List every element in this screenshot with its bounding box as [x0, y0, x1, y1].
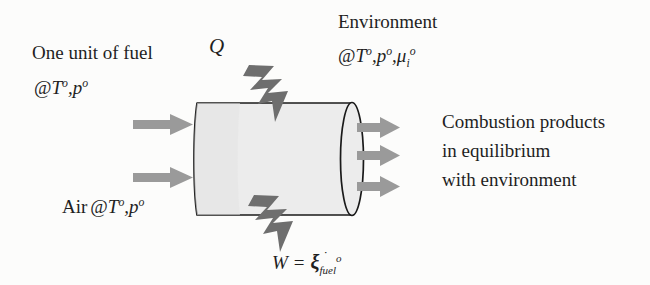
fuel-state-label: @To,po [34, 78, 88, 97]
fuel-pressure-symbol: p [73, 77, 83, 98]
env-pressure-symbol: p [377, 45, 387, 66]
heat-symbol-label: Q [209, 36, 224, 57]
products-label-line2: in equilibrium [442, 141, 550, 160]
fuel-label-line1: One unit of fuel [32, 43, 153, 62]
arrow-right-icon-air-inlet [133, 167, 193, 188]
xi-glyph: ξ [311, 251, 320, 273]
products-label-line1: Combustion products [442, 112, 605, 131]
env-temperature-symbol: T [356, 45, 367, 66]
env-chemical-potential-index: i [406, 57, 409, 70]
fuel-exergy-rate-symbol: ˙ξfuelo [311, 253, 342, 273]
xi-overdot: ˙ [323, 249, 327, 262]
xi-superscript-degree: o [336, 252, 342, 264]
air-temperature-symbol: T [108, 196, 119, 217]
air-state-label: Air@To,po [62, 197, 144, 216]
at-symbol-fuel: @ [34, 78, 52, 97]
at-symbol-air: @ [90, 197, 108, 216]
environment-state-label: @To,po,μio [338, 46, 416, 65]
environment-label-line1: Environment [338, 12, 437, 31]
arrow-right-icon-fuel-inlet [133, 114, 193, 135]
air-pressure-symbol: p [129, 196, 139, 217]
arrow-right-icon-product-outlet-1 [357, 117, 400, 138]
fuel-temperature-symbol: T [52, 77, 63, 98]
air-prefix-text: Air [62, 196, 87, 217]
air-pressure-degree: o [139, 196, 145, 209]
combustion-chamber-diagram: One unit of fuel @To,po Q Environment @T… [0, 0, 650, 285]
cylinder-icon [194, 103, 364, 216]
work-symbol: W [272, 252, 288, 273]
at-symbol-environment: @ [338, 46, 356, 65]
fuel-pressure-degree: o [82, 77, 88, 90]
work-equals-sign: = [294, 252, 305, 273]
env-chemical-potential-degree: o [410, 45, 416, 58]
products-label-line3: with environment [442, 170, 577, 189]
work-equation-label: W=˙ξfuelo [272, 253, 342, 273]
env-chemical-potential-symbol: μ [397, 45, 407, 66]
xi-subscript-fuel: fuel [320, 264, 337, 276]
